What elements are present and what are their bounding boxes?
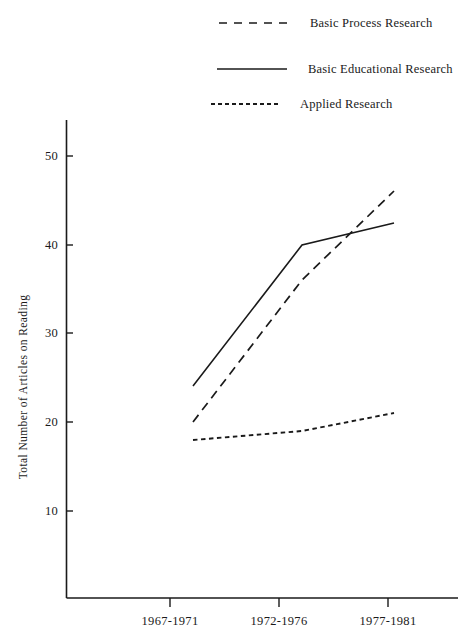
line-chart-svg: 50 40 30 20 10 Total Number of Articles … [0, 120, 465, 642]
figure: Basic Process Research Basic Educational… [0, 0, 465, 642]
y-tick-label: 10 [45, 504, 58, 518]
legend-item-basic-educational-research: Basic Educational Research [210, 58, 453, 80]
chart-legend: Basic Process Research Basic Educational… [0, 0, 465, 120]
legend-label: Applied Research [300, 98, 392, 111]
legend-item-applied-research: Applied Research [210, 93, 392, 115]
legend-label: Basic Process Research [310, 17, 432, 30]
legend-swatch-applied-research [210, 99, 280, 109]
y-axis-title: Total Number of Articles on Reading [17, 295, 30, 480]
y-tick-label: 40 [45, 238, 58, 252]
legend-swatch-basic-process-research [218, 18, 290, 28]
x-tick-label: 1977-1981 [360, 614, 417, 628]
legend-item-basic-process-research: Basic Process Research [210, 12, 432, 34]
x-tick-label: 1972-1976 [251, 614, 308, 628]
y-tick-label: 50 [45, 149, 58, 163]
y-tick-label: 30 [45, 326, 58, 340]
legend-label: Basic Educational Research [308, 63, 453, 76]
legend-swatch-basic-educational-research [216, 64, 288, 74]
y-tick-label: 20 [45, 415, 58, 429]
series-line-applied-research [193, 413, 394, 440]
series-line-basic-process-research [193, 191, 394, 422]
x-tick-label: 1967-1971 [142, 614, 199, 628]
series-line-basic-educational-research [193, 223, 394, 386]
chart-plot-area: 50 40 30 20 10 Total Number of Articles … [0, 120, 465, 642]
